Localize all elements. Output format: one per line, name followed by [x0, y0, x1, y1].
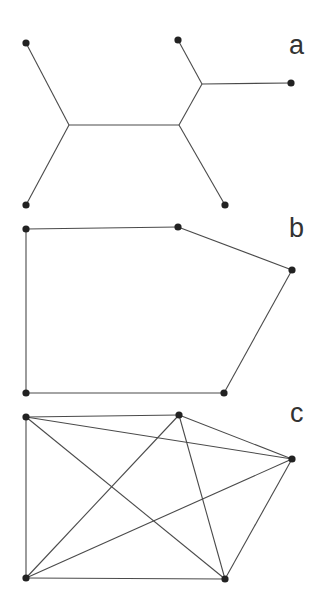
panel-a-edges — [26, 40, 291, 205]
edge — [26, 125, 69, 205]
panel-c-edges — [26, 415, 292, 579]
edge — [26, 415, 179, 578]
edge — [178, 227, 292, 270]
node — [22, 201, 29, 208]
node — [220, 389, 227, 396]
edge — [26, 459, 292, 578]
edge — [179, 415, 225, 579]
node — [175, 411, 182, 418]
node — [22, 225, 29, 232]
node — [288, 266, 295, 273]
edge — [178, 40, 202, 84]
edge — [26, 417, 225, 579]
node — [221, 575, 228, 582]
edge — [179, 415, 292, 459]
node — [22, 389, 29, 396]
panel-b-label: b — [289, 213, 304, 243]
panel-a-label: a — [289, 30, 305, 60]
node — [174, 36, 181, 43]
panel-a-nodes — [22, 36, 294, 208]
node — [22, 39, 29, 46]
edge — [26, 43, 69, 125]
panel-a: a — [22, 30, 305, 209]
edge — [225, 459, 292, 579]
edge — [26, 417, 292, 459]
node — [221, 201, 228, 208]
node — [22, 413, 29, 420]
edge — [179, 125, 225, 205]
edge — [26, 415, 179, 417]
node — [288, 455, 295, 462]
panel-b-nodes — [22, 223, 295, 396]
panel-c: c — [22, 398, 303, 583]
node — [174, 223, 181, 230]
edge — [224, 270, 292, 393]
node — [22, 574, 29, 581]
panel-b-edges — [26, 227, 292, 393]
panel-b: b — [22, 213, 304, 397]
graph-figure: a b c — [0, 0, 333, 616]
edge — [26, 578, 225, 579]
edge — [202, 83, 291, 84]
edge — [179, 84, 202, 125]
node — [287, 79, 294, 86]
edge — [26, 227, 178, 229]
panel-c-label: c — [290, 398, 304, 428]
